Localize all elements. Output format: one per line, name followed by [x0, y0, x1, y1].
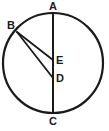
geometry-canvas: [0, 0, 109, 131]
point-label-b: B: [7, 20, 15, 31]
point-label-e: E: [56, 55, 63, 66]
point-label-d: D: [56, 73, 64, 84]
geometry-figure: A B E D C: [0, 0, 109, 131]
point-label-c: C: [49, 116, 57, 127]
point-label-a: A: [49, 1, 57, 12]
